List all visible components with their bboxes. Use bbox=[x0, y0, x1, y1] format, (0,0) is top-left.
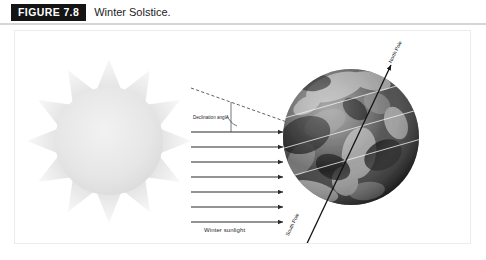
figure-page: FIGURE 7.8 Winter Solstice. bbox=[0, 0, 486, 260]
earth-surface-texture bbox=[274, 65, 421, 206]
header-divider bbox=[0, 23, 486, 25]
winter-sunlight-label: Winter sunlight bbox=[204, 227, 245, 233]
declination-angle-label: Declination angle bbox=[193, 115, 233, 121]
figure-number-badge: FIGURE 7.8 bbox=[11, 4, 86, 21]
sun-graphic bbox=[27, 59, 191, 223]
winter-solstice-diagram bbox=[15, 31, 470, 243]
sun-disc bbox=[55, 87, 163, 195]
sunlight-arrows bbox=[191, 132, 283, 222]
figure-caption: Winter Solstice. bbox=[94, 6, 170, 18]
south-pole-axis-arrow bbox=[303, 235, 311, 243]
figure-panel: Declination angle Winter sunlight North … bbox=[14, 30, 471, 244]
figure-header: FIGURE 7.8 Winter Solstice. bbox=[0, 0, 486, 24]
